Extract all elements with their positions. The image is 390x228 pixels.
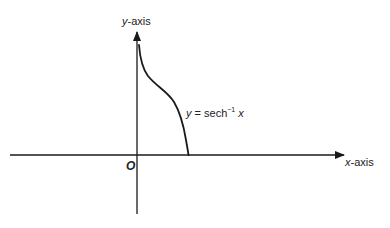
curve-label: y = sech−1 x — [185, 106, 244, 119]
y-axis-label: y-axis — [121, 15, 151, 27]
sech-inverse-diagram: y-axis x-axis O y = sech−1 x — [0, 0, 390, 228]
y-axis-label-suffix: -axis — [128, 15, 152, 27]
curve-label-sup: −1 — [227, 106, 235, 113]
sech-inverse-curve — [139, 45, 189, 155]
origin-label: O — [126, 159, 136, 173]
x-axis-label: x-axis — [344, 156, 374, 168]
curve-label-x: x — [235, 107, 244, 119]
curve-label-eq: = sech — [192, 107, 228, 119]
x-axis-label-suffix: -axis — [351, 156, 375, 168]
